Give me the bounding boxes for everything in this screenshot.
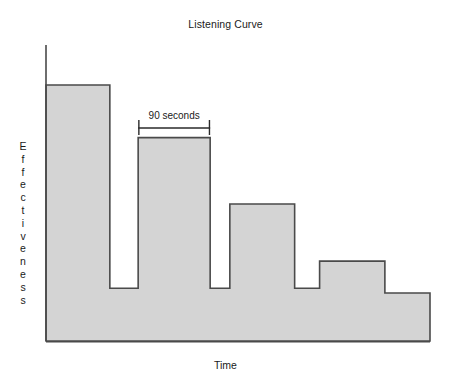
chart-canvas: Listening Curve E f f e c t i v e n e s …: [0, 0, 451, 382]
step-area-path: [46, 85, 430, 341]
annotation-bracket: [138, 120, 210, 135]
annotation-label-90-seconds: 90 seconds: [138, 110, 210, 122]
step-area-plot: [0, 0, 451, 382]
x-axis-label: Time: [0, 359, 451, 372]
